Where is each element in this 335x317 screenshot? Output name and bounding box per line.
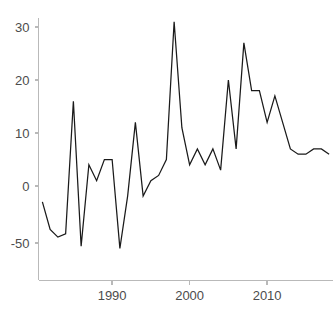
y-tick-label: 10 <box>15 126 29 141</box>
y-tick-label: 30 <box>15 20 29 35</box>
x-tick-label: 2010 <box>253 288 282 303</box>
y-tick-label: 20 <box>15 73 29 88</box>
data-series-line <box>42 22 329 249</box>
x-tick-label: 1990 <box>98 288 127 303</box>
line-chart: 3020100-50 199020002010 <box>0 0 335 317</box>
x-tick-label: 2000 <box>175 288 204 303</box>
y-tick-label: -50 <box>11 236 30 251</box>
chart-canvas: 3020100-50 199020002010 <box>0 0 335 317</box>
x-axis-ticks: 199020002010 <box>98 281 282 303</box>
y-tick-label: 0 <box>22 179 29 194</box>
y-axis-ticks: 3020100-50 <box>11 20 39 251</box>
